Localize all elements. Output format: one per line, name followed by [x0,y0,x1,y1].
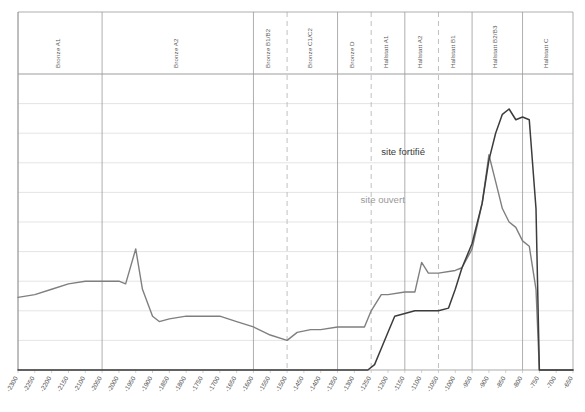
period-label: Bronze B1/B2 [264,28,271,68]
period-divider-group [18,12,573,370]
gridline-group [18,74,573,370]
x-tick-label: -950 [460,375,473,390]
x-tick-label: -900 [477,375,490,390]
x-tick-label: -1300 [341,375,355,393]
series-line-site-fortifie [18,109,573,370]
x-tick-label: -700 [545,375,558,390]
period-label: Hallstatt A1 [382,35,389,68]
period-label-group: Bronze A1Bronze A2Bronze B1/B2Bronze C1/… [54,25,549,68]
period-label: Hallstatt B2/B3 [491,25,498,68]
x-tick-label: -2150 [55,375,69,393]
x-tick-label: -850 [494,375,507,390]
period-label: Bronze D [348,41,355,68]
x-tick-label: -1150 [392,375,406,393]
x-tick-label: -1400 [307,375,321,393]
x-tick-label: -2250 [21,375,35,393]
period-label: Bronze A1 [54,38,61,68]
x-tick-label: -2300 [5,375,19,393]
series-line-site-ouvert [18,155,573,370]
x-tick-label: -1550 [257,375,271,393]
x-tick-label: -650 [561,375,574,390]
x-tick-label: -1100 [409,375,423,393]
series-group [18,109,573,370]
x-tick-label: -800 [511,375,524,390]
xtick-label-group: -2300-2250-2200-2150-2100-2050-2000-1950… [5,375,574,393]
period-label: Hallstatt C [542,38,549,68]
x-tick-label: -1800 [173,375,187,393]
x-tick-label: -2050 [89,375,103,393]
x-tick-label: -1700 [206,375,220,393]
x-tick-label: -2100 [72,375,86,393]
period-label: Hallstatt A2 [416,35,423,68]
x-tick-label: -1000 [442,375,456,393]
x-tick-label: -1250 [358,375,372,393]
x-tick-label: -1750 [190,375,204,393]
series-label-site-fortifie: site fortifié [381,146,425,157]
x-tick-label: -1500 [274,375,288,393]
x-tick-label: -1050 [425,375,439,393]
x-tick-label: -1900 [139,375,153,393]
x-tick-label: -1850 [156,375,170,393]
chart-canvas: site ouvertsite fortifié -2300-2250-2200… [0,0,585,412]
series-label-site-ouvert: site ouvert [361,194,406,205]
period-label: Hallstatt B1 [449,35,456,68]
series-label-group: site ouvertsite fortifié [361,146,425,205]
x-tick-label: -2200 [38,375,52,393]
chronology-line-chart: site ouvertsite fortifié -2300-2250-2200… [0,0,585,412]
x-tick-label: -1350 [324,375,338,393]
x-tick-label: -1950 [122,375,136,393]
x-tick-label: -1650 [223,375,237,393]
x-tick-label: -750 [528,375,541,390]
x-tick-label: -1450 [291,375,305,393]
x-tick-label: -1600 [240,375,254,393]
period-label: Bronze C1/C2 [306,27,313,68]
x-tick-label: -1200 [375,375,389,393]
period-label: Bronze A2 [172,38,179,68]
x-tick-label: -2000 [106,375,120,393]
